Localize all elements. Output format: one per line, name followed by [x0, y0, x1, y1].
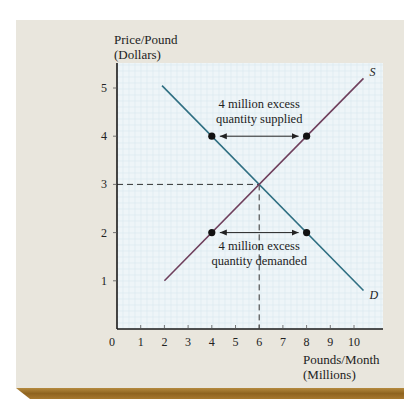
supply-demand-chart: DS 4 million excessquantity supplied4 mi… [0, 0, 404, 409]
x-axis-title: Pounds/Month [303, 352, 380, 367]
point-marker [208, 133, 215, 140]
x-tick-label: 6 [256, 335, 262, 349]
x-tick-label: 3 [185, 335, 191, 349]
annotation-text: quantity supplied [216, 112, 303, 126]
annotation-text: 4 million excess [219, 239, 300, 253]
y-tick-label: 1 [101, 274, 107, 288]
y-tick-label: 5 [101, 81, 107, 95]
x-tick-label: 1 [138, 335, 144, 349]
annotation-text: 4 million excess [219, 97, 300, 111]
point-marker [303, 229, 310, 236]
x-tick-label: 8 [304, 335, 310, 349]
y-tick-label: 3 [101, 177, 107, 191]
y-axis-title: Price/Pound [114, 32, 178, 47]
annotation-text: quantity demanded [211, 254, 307, 268]
demand-curve-label: D [368, 288, 378, 302]
x-tick-label: 4 [209, 335, 215, 349]
x-axis-title: (Millions) [303, 367, 356, 382]
x-tick-label: 9 [327, 335, 333, 349]
point-marker [208, 229, 215, 236]
y-tick-label: 4 [101, 129, 107, 143]
x-tick-label: 2 [161, 335, 167, 349]
x-tick-label: 0 [109, 335, 115, 349]
y-tick-label: 2 [101, 226, 107, 240]
y-axis-title: (Dollars) [114, 47, 161, 62]
point-marker [303, 133, 310, 140]
supply-curve-label: S [369, 65, 375, 79]
x-tick-label: 10 [348, 335, 360, 349]
x-tick-label: 5 [233, 335, 239, 349]
x-tick-label: 7 [280, 335, 286, 349]
